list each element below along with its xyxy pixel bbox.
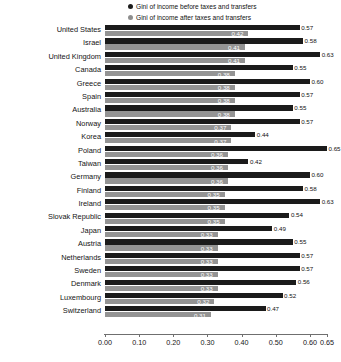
bar-value-before: 0.60	[311, 172, 323, 178]
bar-before-taxes	[105, 38, 303, 43]
bar-value-before: 0.57	[301, 92, 313, 98]
axis-tick-label: 0.30	[200, 338, 214, 347]
bar-after-taxes	[105, 125, 231, 130]
axis-tick	[105, 334, 106, 337]
axis-tick	[310, 334, 311, 337]
bar-value-before: 0.58	[305, 38, 317, 44]
bar-before-taxes	[105, 226, 272, 231]
category-label: Netherlands	[0, 253, 101, 262]
bar-after-taxes	[105, 58, 245, 63]
chart-row: Israel0.580.41	[0, 37, 333, 50]
chart-row: Finland0.580.35	[0, 185, 333, 198]
chart-row: Switzerland0.470.31	[0, 305, 333, 318]
bar-value-before: 0.57	[301, 119, 313, 125]
bar-value-before: 0.58	[305, 186, 317, 192]
bar-before-taxes	[105, 159, 248, 164]
bar-group: 0.560.33	[105, 278, 333, 291]
chart-row: Poland0.650.36	[0, 145, 333, 158]
bar-value-before: 0.52	[284, 293, 296, 299]
axis-tick	[207, 334, 208, 337]
bar-before-taxes	[105, 186, 303, 191]
bar-group: 0.540.35	[105, 211, 333, 224]
category-label: Switzerland	[0, 306, 101, 315]
category-label: Spain	[0, 92, 101, 101]
bar-before-taxes	[105, 105, 293, 110]
bar-before-taxes	[105, 52, 320, 57]
chart-row: Slovak Republic0.540.35	[0, 211, 333, 224]
filled-circle-dark-icon	[128, 4, 133, 9]
bar-before-taxes	[105, 119, 300, 124]
chart-row: Greece0.600.38	[0, 78, 333, 91]
bar-before-taxes	[105, 213, 289, 218]
category-label: Austria	[0, 239, 101, 248]
bar-after-taxes	[105, 31, 248, 36]
chart-row: Ireland0.630.35	[0, 198, 333, 211]
bar-group: 0.490.33	[105, 225, 333, 238]
axis-tick	[327, 334, 328, 337]
bar-group: 0.570.37	[105, 118, 333, 131]
axis-tick-label: 0.00	[98, 338, 112, 347]
category-label: Luxembourg	[0, 293, 101, 302]
chart-row: United States0.570.42	[0, 24, 333, 37]
bar-value-before: 0.57	[301, 25, 313, 31]
category-label: United States	[0, 25, 101, 34]
bar-after-taxes	[105, 44, 245, 49]
chart-row: Germany0.600.36	[0, 171, 333, 184]
bar-before-taxes	[105, 132, 255, 137]
legend-item-label: Gini of income after taxes and transfers	[136, 14, 251, 21]
category-label: Ireland	[0, 199, 101, 208]
bar-group: 0.570.42	[105, 24, 333, 37]
bar-group: 0.630.35	[105, 198, 333, 211]
axis-tick	[276, 334, 277, 337]
bar-after-taxes	[105, 152, 228, 157]
bar-group: 0.580.35	[105, 185, 333, 198]
bar-after-taxes	[105, 111, 235, 116]
bar-group: 0.420.36	[105, 158, 333, 171]
category-label: Germany	[0, 172, 101, 181]
chart-row: Denmark0.560.33	[0, 278, 333, 291]
category-label: Korea	[0, 132, 101, 141]
chart-row: United Kingdom0.630.41	[0, 51, 333, 64]
chart-row: Austria0.550.33	[0, 238, 333, 251]
axis-tick-label: 0.40	[235, 338, 249, 347]
bar-before-taxes	[105, 293, 283, 298]
category-label: Taiwan	[0, 159, 101, 168]
bar-after-taxes	[105, 85, 235, 90]
filled-circle-gray-icon	[128, 15, 133, 20]
bar-group: 0.570.33	[105, 265, 333, 278]
bar-before-taxes	[105, 92, 300, 97]
bar-value-before: 0.55	[294, 65, 306, 71]
axis-tick-label: 0.60	[303, 338, 317, 347]
category-label: Australia	[0, 105, 101, 114]
category-label: Norway	[0, 119, 101, 128]
bar-after-taxes	[105, 98, 235, 103]
axis-tick-label: 0.65	[320, 338, 334, 347]
bar-group: 0.600.38	[105, 78, 333, 91]
bar-value-before: 0.65	[329, 146, 341, 152]
bar-value-before: 0.60	[311, 79, 323, 85]
category-label: United Kingdom	[0, 52, 101, 61]
category-label: Slovak Republic	[0, 212, 101, 221]
category-label: Greece	[0, 79, 101, 88]
axis-tick	[139, 334, 140, 337]
bar-group: 0.550.38	[105, 64, 333, 77]
bar-group: 0.520.32	[105, 292, 333, 305]
bar-value-before: 0.56	[298, 279, 310, 285]
bar-group: 0.580.41	[105, 37, 333, 50]
bar-value-before: 0.49	[274, 226, 286, 232]
category-label: Israel	[0, 38, 101, 47]
bar-group: 0.550.38	[105, 104, 333, 117]
bar-after-taxes	[105, 178, 228, 183]
chart-row: Netherlands0.570.33	[0, 252, 333, 265]
axis-tick-label: 0.10	[132, 338, 146, 347]
bar-value-before: 0.42	[250, 159, 262, 165]
bar-before-taxes	[105, 239, 293, 244]
category-label: Canada	[0, 65, 101, 74]
axis-tick	[173, 334, 174, 337]
axis-tick-label: 0.20	[166, 338, 180, 347]
category-label: Finland	[0, 186, 101, 195]
bar-before-taxes	[105, 25, 300, 30]
bar-after-taxes	[105, 71, 235, 76]
category-label: Japan	[0, 226, 101, 235]
bar-value-before: 0.57	[301, 266, 313, 272]
